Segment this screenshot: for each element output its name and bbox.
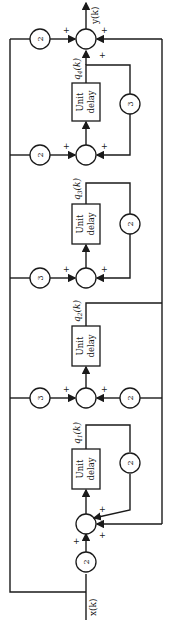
delay-label: delay (86, 457, 96, 480)
gain-value: 2 (126, 460, 135, 465)
summing-junction-q4 (76, 145, 96, 165)
gain-value: 2 (36, 36, 45, 41)
summing-junction-q3 (76, 268, 96, 288)
plus-sign: + (73, 537, 80, 546)
plus-sign: + (101, 265, 108, 274)
plus-sign: + (101, 385, 108, 394)
plus-sign: + (99, 51, 106, 60)
plus-sign: + (101, 26, 108, 35)
input-label: x(k) (88, 598, 98, 616)
delay-label: Unit (75, 92, 85, 111)
state-wire-q1 (86, 425, 130, 452)
state-label-q2: q2(k) (72, 299, 83, 322)
summing-junction-q2 (76, 388, 96, 408)
plus-sign: + (99, 505, 106, 514)
svg-text:q2(k): q2(k) (72, 299, 83, 322)
delay-label: Unit (75, 214, 85, 233)
state-label-q3: q3(k) (72, 177, 83, 200)
summing-junction-q1 (76, 514, 96, 534)
gain-value: 3 (126, 101, 135, 106)
svg-text:q3(k): q3(k) (72, 177, 83, 200)
plus-sign: + (63, 265, 70, 274)
gain-value: 3 (36, 395, 45, 400)
output-label: y(k) (90, 6, 100, 25)
plus-sign: + (63, 385, 70, 394)
plus-sign: + (99, 531, 106, 540)
gain-value: 2 (126, 395, 135, 400)
gain-value: 2 (126, 221, 135, 226)
gain-value: 3 (36, 275, 45, 280)
gain-value: 2 (36, 152, 45, 157)
plus-sign: + (63, 142, 70, 151)
delay-label: Unit (75, 459, 85, 478)
left-rail (10, 39, 86, 592)
plus-sign: + (63, 26, 70, 35)
summing-junction-output (76, 29, 96, 49)
block-diagram: x(k) 2 + + + Unit delay 2 q1(k) 3 + + 2 … (0, 0, 170, 624)
delay-label: delay (86, 212, 96, 235)
state-wire-q2 (86, 303, 162, 326)
state-label-q4: q4(k) (72, 57, 83, 80)
svg-text:q1(k): q1(k) (72, 421, 83, 444)
delay-label: delay (86, 334, 96, 357)
delay-label: Unit (75, 336, 85, 355)
plus-sign: + (101, 142, 108, 151)
delay-label: delay (86, 90, 96, 113)
state-label-q1: q1(k) (72, 421, 83, 444)
svg-text:q4(k): q4(k) (72, 57, 83, 80)
gain-value: 2 (82, 559, 91, 564)
